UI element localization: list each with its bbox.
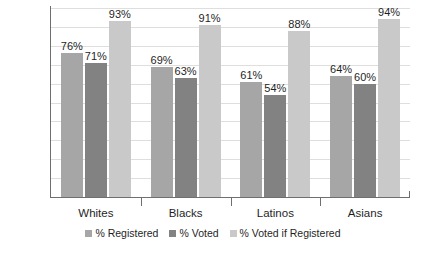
bar-value-label: 91% [199, 12, 221, 24]
bar[interactable] [354, 84, 376, 197]
x-axis-right-cap [409, 191, 410, 197]
group-separator-tick [231, 198, 232, 206]
legend-swatch-icon [230, 230, 237, 237]
bar[interactable] [264, 95, 286, 197]
plot-area: 76%71%93%69%63%91%61%54%88%64%60%94% [51, 8, 410, 197]
group-separator-tick [320, 198, 321, 206]
bar-value-label: 94% [378, 6, 400, 18]
legend-label: % Voted [179, 227, 218, 239]
bar-slot: 88% [288, 8, 310, 197]
bar[interactable] [288, 31, 310, 197]
bar-slot: 76% [61, 8, 83, 197]
bar[interactable] [378, 19, 400, 197]
x-axis-left-cap [50, 191, 51, 197]
bar[interactable] [61, 53, 83, 197]
bar-value-label: 88% [288, 18, 310, 30]
bar-slot: 93% [109, 8, 131, 197]
bar-slot: 60% [354, 8, 376, 197]
bar[interactable] [330, 76, 352, 197]
bar-slot: 64% [330, 8, 352, 197]
bar-value-label: 76% [61, 40, 83, 52]
bar-group: 76%71%93% [51, 8, 141, 197]
legend-swatch-icon [169, 230, 176, 237]
category-label: Whites [51, 206, 141, 220]
chart-legend: % Registered% Voted% Voted if Registered [0, 227, 426, 239]
legend-label: % Voted if Registered [240, 227, 341, 239]
y-axis-line [50, 6, 51, 197]
bar[interactable] [240, 82, 262, 197]
bar-slot: 71% [85, 8, 107, 197]
bar[interactable] [175, 78, 197, 197]
bar[interactable] [151, 67, 173, 197]
bar-slot: 69% [151, 8, 173, 197]
bar-chart: 76%71%93%69%63%91%61%54%88%64%60%94% Whi… [0, 0, 426, 254]
legend-item[interactable]: % Registered [85, 227, 158, 239]
bar-groups: 76%71%93%69%63%91%61%54%88%64%60%94% [51, 8, 410, 197]
bar-value-label: 64% [330, 63, 352, 75]
bar-slot: 91% [199, 8, 221, 197]
bar-group: 61%54%88% [231, 8, 321, 197]
bar-slot: 63% [175, 8, 197, 197]
bar[interactable] [85, 63, 107, 197]
bar[interactable] [199, 25, 221, 197]
bar[interactable] [109, 21, 131, 197]
category-label: Asians [320, 206, 410, 220]
group-separator-tick [141, 198, 142, 206]
bar-value-label: 93% [109, 8, 131, 20]
category-axis-labels: WhitesBlacksLatinosAsians [51, 206, 410, 220]
bar-group: 69%63%91% [141, 8, 231, 197]
category-label: Latinos [231, 206, 321, 220]
legend-item[interactable]: % Voted [169, 227, 218, 239]
category-label: Blacks [141, 206, 231, 220]
bar-group: 64%60%94% [320, 8, 410, 197]
bar-slot: 94% [378, 8, 400, 197]
bar-value-label: 69% [151, 54, 173, 66]
bar-value-label: 71% [85, 50, 107, 62]
bar-slot: 54% [264, 8, 286, 197]
bar-value-label: 63% [175, 65, 197, 77]
bar-slot: 61% [240, 8, 262, 197]
bar-value-label: 60% [354, 71, 376, 83]
legend-swatch-icon [85, 230, 92, 237]
legend-item[interactable]: % Voted if Registered [230, 227, 341, 239]
legend-label: % Registered [95, 227, 158, 239]
bar-value-label: 61% [240, 69, 262, 81]
bar-value-label: 54% [264, 82, 286, 94]
